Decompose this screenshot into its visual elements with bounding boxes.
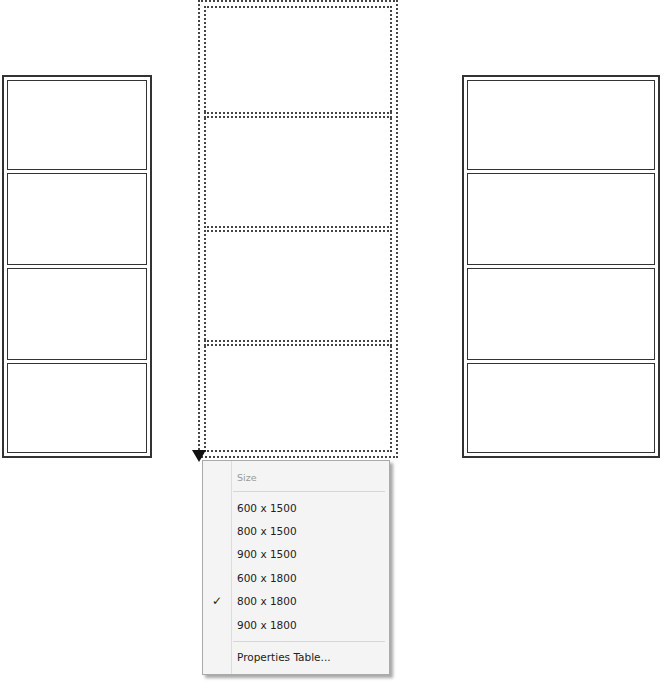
frame-rail	[204, 226, 392, 232]
checkmark-icon: ✓	[212, 592, 222, 610]
menu-item-800x1800[interactable]: 800 x 1800	[237, 592, 297, 610]
frame-rail	[204, 340, 392, 346]
window-frame-left[interactable]	[2, 75, 152, 458]
menu-item-900x1500[interactable]: 900 x 1500	[237, 545, 297, 563]
frame-rail	[467, 359, 655, 364]
frame-rail	[7, 264, 147, 269]
menu-item-800x1500[interactable]: 800 x 1500	[237, 522, 297, 540]
menu-header-size: Size	[237, 469, 257, 487]
size-context-menu: Size 600 x 1500 800 x 1500 900 x 1500 60…	[202, 460, 390, 675]
menu-item-600x1500[interactable]: 600 x 1500	[237, 499, 297, 517]
menu-separator	[233, 641, 385, 642]
frame-rail	[467, 169, 655, 174]
menu-item-900x1800[interactable]: 900 x 1800	[237, 616, 297, 634]
menu-separator	[233, 491, 385, 492]
frame-rail	[7, 169, 147, 174]
frame-rail	[204, 112, 392, 118]
menu-item-600x1800[interactable]: 600 x 1800	[237, 569, 297, 587]
menu-item-properties-table[interactable]: Properties Table...	[237, 648, 331, 666]
window-frame-selected[interactable]	[198, 0, 398, 458]
menu-gutter	[203, 461, 232, 674]
window-frame-right[interactable]	[462, 75, 660, 458]
frame-rail	[7, 359, 147, 364]
frame-rail	[467, 264, 655, 269]
